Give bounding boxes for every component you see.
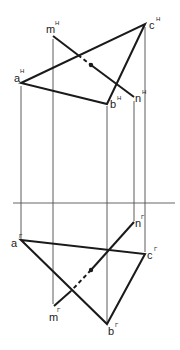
label-c-lower-sup: Г	[154, 246, 158, 252]
line-mn-lower-hidden	[71, 270, 91, 291]
triangle-abc-lower	[21, 240, 145, 324]
line-mn-lower-visible-1	[91, 222, 134, 270]
label-a-lower-sup: Г	[19, 233, 23, 239]
intersection-point-upper	[89, 63, 93, 67]
label-n-upper-sup: H	[142, 89, 146, 95]
label-m-lower-sup: Г	[57, 307, 61, 313]
label-m-upper: m	[46, 23, 55, 35]
line-mn-upper-hidden	[78, 55, 91, 65]
label-b-lower: b	[108, 325, 114, 337]
label-b-lower-sup: Г	[115, 322, 119, 328]
label-a-lower: a	[11, 237, 18, 249]
line-mn-upper-visible-1	[53, 36, 78, 55]
label-m-upper-sup: H	[55, 20, 59, 26]
lower-view	[21, 222, 145, 324]
intersection-point-lower	[89, 268, 93, 272]
projection-diagram: a H m H c H b H n H a Г n Г c Г m Г b Г	[0, 0, 180, 350]
upper-view	[21, 24, 145, 104]
label-b-upper-sup: H	[117, 95, 121, 101]
label-a-upper-sup: H	[20, 68, 24, 74]
label-n-upper: n	[135, 92, 141, 104]
label-c-lower: c	[147, 249, 153, 261]
label-n-lower-sup: Г	[141, 214, 145, 220]
label-b-upper: b	[110, 98, 116, 110]
line-mn-lower-visible-2	[54, 291, 71, 306]
label-c-upper-sup: H	[156, 16, 160, 22]
label-c-upper: c	[149, 19, 155, 31]
